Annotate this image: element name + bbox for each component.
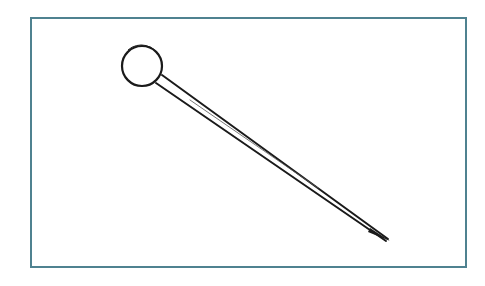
pin-shaft (156, 75, 390, 241)
pin-head (122, 45, 162, 86)
pin-icon (0, 0, 485, 286)
